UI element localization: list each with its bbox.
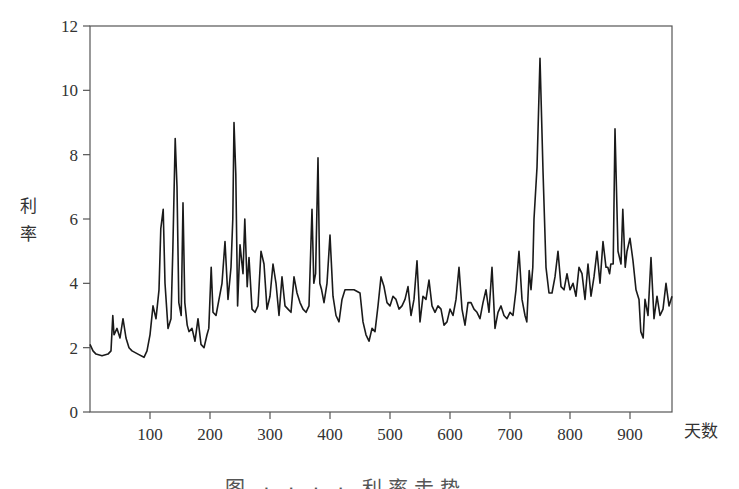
x-axis-label: 天数 (684, 421, 718, 441)
y-tick-label: 2 (70, 339, 79, 358)
x-tick-label: 400 (317, 425, 343, 444)
chart-canvas: 024681012 100200300400500600700800900 利 … (0, 0, 739, 489)
x-tick-label: 100 (137, 425, 163, 444)
y-tick-label: 10 (61, 81, 78, 100)
y-tick-label: 4 (70, 274, 79, 293)
x-axis: 100200300400500600700800900 (137, 412, 643, 444)
x-tick-label: 500 (377, 425, 403, 444)
y-tick-label: 6 (70, 210, 79, 229)
y-axis: 024681012 (61, 17, 90, 422)
x-tick-label: 300 (257, 425, 283, 444)
x-tick-label: 900 (617, 425, 643, 444)
x-tick-label: 200 (197, 425, 223, 444)
y-tick-label: 12 (61, 17, 78, 36)
y-tick-label: 8 (70, 146, 79, 165)
x-tick-label: 600 (437, 425, 463, 444)
y-axis-label-char2: 率 (20, 224, 37, 244)
figure-caption: 图 · · · · 利率走势 (225, 478, 525, 489)
x-tick-label: 700 (497, 425, 523, 444)
y-tick-label: 0 (70, 403, 79, 422)
x-tick-label: 800 (557, 425, 583, 444)
y-axis-label-char1: 利 (20, 196, 37, 216)
